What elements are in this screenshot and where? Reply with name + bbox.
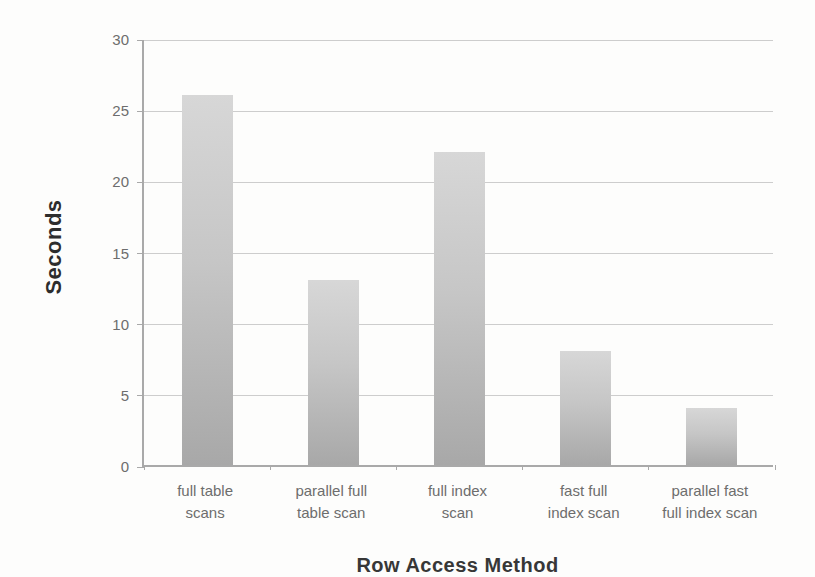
x-category-label-fast-full-index-scan: fast fullindex scan (521, 480, 647, 524)
y-tick-mark-10 (137, 324, 144, 325)
x-tick-mark-5 (775, 465, 776, 470)
x-category-label-line: index scan (521, 502, 647, 524)
bar-chart: Seconds 051015202530 full tablescanspara… (0, 0, 815, 577)
x-category-label-parallel-fast-full-index-scan: parallel fastfull index scan (647, 480, 773, 524)
y-tick-mark-15 (137, 253, 144, 254)
y-tick-label-5: 5 (85, 387, 129, 405)
x-category-label-parallel-full-table-scan: parallel fulltable scan (268, 480, 394, 524)
y-tick-mark-30 (137, 40, 144, 41)
x-category-label-line: full table (142, 480, 268, 502)
y-axis-title: Seconds (41, 199, 67, 294)
y-tick-label-0: 0 (85, 458, 129, 476)
bar-parallel-full-table-scan (308, 280, 359, 465)
y-tick-mark-5 (137, 395, 144, 396)
x-category-label-full-index-scan: full indexscan (394, 480, 520, 524)
bar-parallel-fast-full-index-scan (686, 408, 737, 465)
bar-full-table-scans (182, 95, 233, 465)
x-tick-mark-2 (396, 465, 397, 470)
bar-full-index-scan (434, 152, 485, 465)
x-tick-mark-4 (648, 465, 649, 470)
x-category-label-line: fast full (521, 480, 647, 502)
x-category-label-line: table scan (268, 502, 394, 524)
y-tick-mark-25 (137, 111, 144, 112)
x-category-label-full-table-scans: full tablescans (142, 480, 268, 524)
scanned-chart-page: Seconds 051015202530 full tablescanspara… (0, 0, 815, 577)
x-tick-mark-3 (522, 465, 523, 470)
x-category-label-line: full index (394, 480, 520, 502)
x-category-label-line: parallel full (268, 480, 394, 502)
y-tick-label-30: 30 (85, 31, 129, 49)
x-category-label-line: scan (394, 502, 520, 524)
x-category-label-line: scans (142, 502, 268, 524)
x-category-label-line: parallel fast (647, 480, 773, 502)
bar-fast-full-index-scan (560, 351, 611, 465)
plot-area (142, 40, 773, 467)
x-tick-mark-1 (270, 465, 271, 470)
y-tick-mark-20 (137, 182, 144, 183)
y-tick-label-15: 15 (85, 245, 129, 263)
y-tick-label-25: 25 (85, 102, 129, 120)
x-category-label-line: full index scan (647, 502, 773, 524)
y-tick-label-20: 20 (85, 173, 129, 191)
x-axis-title: Row Access Method (142, 554, 773, 577)
y-tick-label-10: 10 (85, 316, 129, 334)
x-tick-mark-0 (144, 465, 145, 470)
gridline-y-30 (144, 40, 773, 41)
gridline-y-25 (144, 111, 773, 112)
